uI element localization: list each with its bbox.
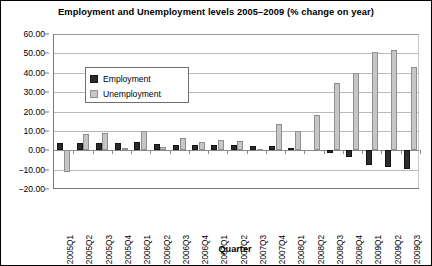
bar-unemployment-2007Q3 — [257, 149, 263, 151]
x-axis-tick-mark — [343, 150, 344, 154]
bar-unemployment-2006Q1 — [141, 131, 147, 150]
x-axis-tick-mark — [93, 150, 94, 154]
y-axis-tick-label: −20.00 — [18, 184, 45, 194]
bar-employment-2007Q4 — [269, 146, 275, 150]
x-axis-tick-mark — [112, 150, 113, 154]
x-axis-tick-mark — [73, 150, 74, 154]
gridline-10 — [54, 131, 419, 132]
bar-employment-2006Q3 — [173, 145, 179, 150]
y-axis-tick-mark — [45, 169, 49, 170]
chart-container: Employment and Unemployment levels 2005–… — [0, 0, 432, 266]
bar-unemployment-2005Q2 — [83, 134, 89, 150]
y-axis-tick-mark — [45, 150, 49, 151]
x-axis-tick-mark — [285, 150, 286, 154]
y-axis-tick-mark — [45, 92, 49, 93]
bar-unemployment-2007Q4 — [276, 124, 282, 150]
bar-unemployment-2007Q2 — [237, 141, 243, 150]
bar-employment-2005Q3 — [96, 143, 102, 151]
bar-employment-2006Q4 — [192, 145, 198, 150]
bar-unemployment-2008Q4 — [353, 73, 359, 151]
x-axis-tick-mark — [420, 150, 421, 154]
y-axis-tick-mark — [45, 111, 49, 112]
bar-employment-2009Q3 — [404, 150, 410, 169]
x-axis-tick-mark — [381, 150, 382, 154]
legend-swatch-employment — [90, 75, 98, 83]
bar-employment-2006Q1 — [134, 142, 140, 150]
bar-unemployment-2005Q3 — [102, 133, 108, 150]
bar-unemployment-2008Q3 — [334, 83, 340, 150]
bar-employment-2007Q1 — [211, 145, 217, 150]
x-axis-tick-mark — [304, 150, 305, 154]
bar-unemployment-2008Q2 — [314, 115, 320, 150]
legend-label-unemployment: Unemployment — [103, 89, 161, 99]
bar-unemployment-2006Q2 — [160, 147, 166, 151]
y-axis-tick-label: −10.00 — [18, 165, 45, 175]
x-axis-tick-mark — [208, 150, 209, 154]
bar-unemployment-2009Q1 — [372, 52, 378, 150]
bar-unemployment-2009Q2 — [391, 50, 397, 150]
legend-swatch-unemployment — [90, 90, 98, 98]
bar-employment-2009Q2 — [385, 150, 391, 167]
x-axis-tick-mark — [247, 150, 248, 154]
gridline-20 — [54, 112, 419, 113]
bar-employment-2009Q1 — [366, 150, 372, 165]
chart-legend: Employment Unemployment — [85, 67, 189, 103]
x-axis-tick-mark — [266, 150, 267, 154]
y-axis-tick-mark — [45, 53, 49, 54]
bar-employment-2008Q4 — [346, 150, 352, 157]
x-axis-tick-mark — [362, 150, 363, 154]
y-axis-tick-mark — [45, 189, 49, 190]
y-axis: 60.0050.0040.0030.0020.0010.000.00−10.00… — [1, 34, 49, 189]
bar-employment-2008Q3 — [327, 150, 333, 153]
y-axis-tick-label: 20.00 — [23, 107, 45, 117]
y-axis-tick-mark — [45, 72, 49, 73]
gridline-0 — [54, 150, 419, 151]
bar-employment-2007Q3 — [250, 146, 256, 151]
y-axis-tick-label: 0.00 — [28, 145, 45, 155]
bar-unemployment-2006Q4 — [199, 142, 205, 150]
legend-label-employment: Employment — [103, 74, 151, 84]
x-axis-tick-mark — [401, 150, 402, 154]
y-axis-tick-mark — [45, 34, 49, 35]
bar-employment-2005Q1 — [57, 143, 63, 151]
bar-employment-2005Q4 — [115, 143, 121, 151]
bar-employment-2007Q2 — [231, 145, 237, 150]
bar-unemployment-2005Q4 — [122, 148, 128, 150]
y-axis-tick-label: 30.00 — [23, 87, 45, 97]
y-axis-tick-label: 50.00 — [23, 48, 45, 58]
chart-title: Employment and Unemployment levels 2005–… — [1, 7, 431, 17]
x-axis-tick-labels: 2005Q12005Q22005Q32005Q42006Q12006Q22006… — [53, 191, 419, 239]
legend-item-unemployment: Unemployment — [90, 86, 184, 101]
x-axis-tick-mark — [131, 150, 132, 154]
bar-employment-2006Q2 — [154, 144, 160, 151]
gridline-neg10 — [54, 170, 419, 171]
y-axis-tick-label: 60.00 — [23, 29, 45, 39]
bar-employment-2008Q1 — [288, 148, 294, 150]
bar-unemployment-2007Q1 — [218, 140, 224, 150]
x-axis-tick-mark — [170, 150, 171, 154]
y-axis-tick-mark — [45, 130, 49, 131]
x-axis-tick-mark — [150, 150, 151, 154]
gridline-50 — [54, 53, 419, 54]
gridline-60 — [54, 34, 419, 35]
bar-unemployment-2006Q3 — [180, 138, 186, 150]
x-axis-title: Quarter — [53, 244, 417, 254]
bar-unemployment-2009Q3 — [411, 67, 417, 150]
bar-unemployment-2008Q1 — [295, 131, 301, 150]
y-axis-tick-label: 10.00 — [23, 126, 45, 136]
x-axis-tick-mark — [189, 150, 190, 154]
bar-employment-2005Q2 — [77, 143, 83, 150]
x-axis-tick-mark — [324, 150, 325, 154]
y-axis-tick-label: 40.00 — [23, 68, 45, 78]
plot-area — [53, 34, 419, 189]
legend-item-employment: Employment — [90, 71, 184, 86]
x-axis-tick-mark — [227, 150, 228, 154]
bar-unemployment-2005Q1 — [64, 150, 70, 172]
